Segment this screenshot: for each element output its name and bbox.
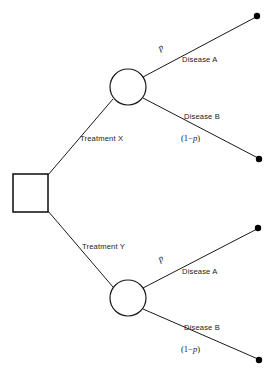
probability-label-p-upper: p: [155, 42, 165, 54]
decision-node-square[interactable]: [13, 174, 48, 212]
chance-node-lower[interactable]: [110, 280, 146, 316]
branch-line-disease-b-lower: [143, 309, 258, 359]
branch-line-disease-b-upper: [143, 98, 258, 158]
branch-label-disease-b-upper: Disease B: [184, 112, 220, 121]
terminal-node-disease-b-lower[interactable]: [256, 357, 262, 363]
prob-close-paren-upper: ): [197, 133, 200, 143]
probability-label-1-minus-p-lower: (1−p): [181, 344, 200, 354]
branch-label-treatment-x: Treatment X: [80, 134, 123, 143]
branch-label-disease-a-lower: Disease A: [182, 267, 218, 276]
chance-node-upper[interactable]: [110, 69, 146, 105]
probability-label-1-minus-p-upper: (1−p): [181, 133, 200, 143]
decision-tree-diagram: p Disease A Disease B (1−p) Treatment X …: [0, 0, 273, 375]
branch-label-treatment-y: Treatment Y: [82, 242, 125, 251]
branch-label-disease-a-upper: Disease A: [182, 55, 218, 64]
terminal-node-disease-a-lower[interactable]: [255, 225, 261, 231]
branch-label-disease-b-lower: Disease B: [184, 323, 220, 332]
terminal-node-disease-a-upper[interactable]: [254, 13, 260, 19]
terminal-node-disease-b-upper[interactable]: [256, 156, 262, 162]
decision-tree-canvas: p Disease A Disease B (1−p) Treatment X …: [0, 0, 273, 375]
prob-open-paren-lower: (1−: [181, 344, 193, 354]
prob-open-paren-upper: (1−: [181, 133, 193, 143]
prob-close-paren-lower: ): [197, 344, 200, 354]
probability-label-p-lower: p: [155, 253, 165, 265]
